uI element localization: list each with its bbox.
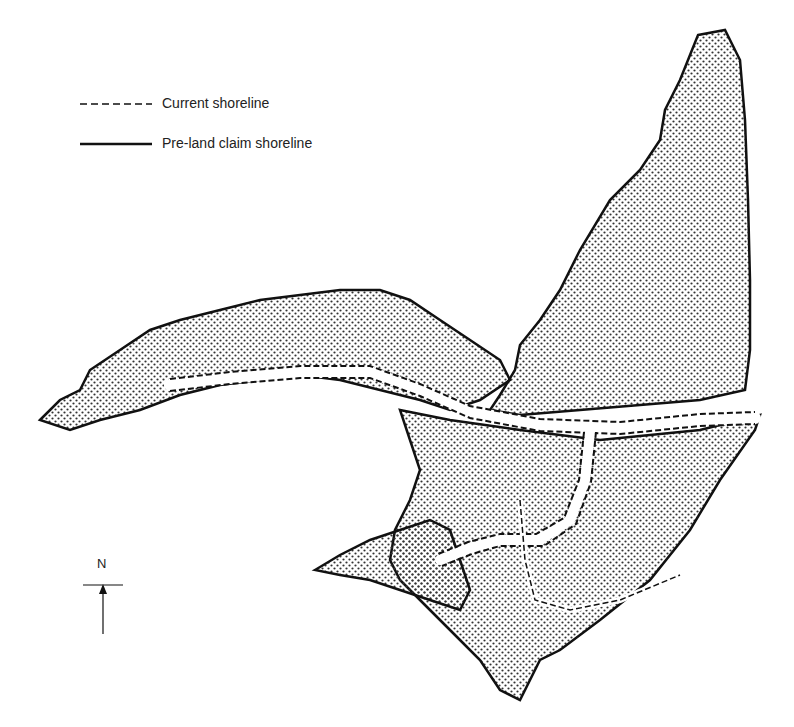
north-east-land	[490, 30, 750, 415]
legend-pre-land-claim-label: Pre-land claim shoreline	[162, 135, 312, 151]
map-figure: Current shoreline Pre-land claim shoreli…	[0, 0, 794, 727]
north-label: N	[97, 556, 106, 571]
legend-current-shoreline-label: Current shoreline	[162, 95, 269, 111]
estuary-map	[0, 0, 794, 727]
west-arm-land	[40, 290, 510, 430]
